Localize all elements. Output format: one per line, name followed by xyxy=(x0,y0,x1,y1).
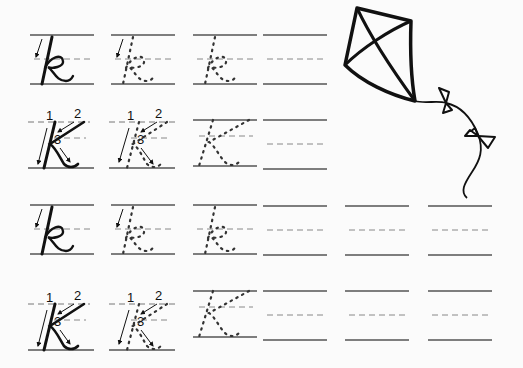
row-lowercase-1 xyxy=(30,35,327,84)
blank-practice-line[interactable] xyxy=(263,206,327,255)
handwriting-worksheet: 1 2 3 1 2 3 xyxy=(0,0,523,368)
blank-practice-line[interactable] xyxy=(263,120,327,169)
model-letter-k-upper xyxy=(28,288,94,350)
blank-practice-line[interactable] xyxy=(428,291,492,340)
blank-practice-line[interactable] xyxy=(345,206,409,255)
dotted-letter-k-lower xyxy=(193,35,257,84)
dotted-letter-k-upper xyxy=(193,291,257,337)
blank-practice-line[interactable] xyxy=(345,291,409,340)
dotted-letter-k-lower-arrow xyxy=(111,205,175,254)
kite-bow-icon xyxy=(439,88,452,113)
dotted-letter-k-upper-arrows xyxy=(109,106,175,168)
blank-practice-line[interactable] xyxy=(263,291,327,340)
model-letter-k-lower xyxy=(30,35,94,84)
bottom-section xyxy=(28,205,492,350)
row-uppercase-2 xyxy=(28,288,492,350)
blank-practice-line[interactable] xyxy=(263,35,327,84)
model-letter-k-upper xyxy=(28,106,94,168)
dotted-letter-k-lower xyxy=(193,205,257,254)
model-letter-k-lower xyxy=(30,205,94,254)
blank-practice-line[interactable] xyxy=(428,206,492,255)
dotted-letter-k-upper-arrows xyxy=(109,288,175,350)
dotted-letter-k-upper xyxy=(193,120,257,166)
kite-illustration xyxy=(345,8,495,198)
dotted-letter-k-lower-arrow xyxy=(111,35,175,84)
row-uppercase-1 xyxy=(28,106,327,169)
row-lowercase-2 xyxy=(30,205,492,255)
top-section xyxy=(28,35,327,169)
